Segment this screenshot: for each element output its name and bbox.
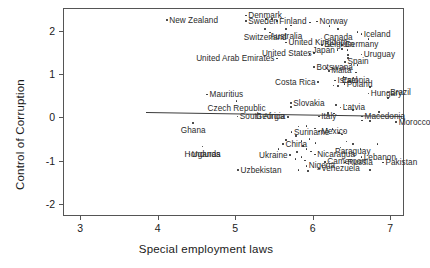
data-point — [337, 28, 339, 30]
x-tick-label: 3 — [70, 222, 90, 234]
data-point — [166, 19, 168, 21]
data-point — [245, 15, 247, 17]
point-label: Pakistan — [385, 158, 417, 167]
point-label: Iceland — [364, 30, 391, 39]
point-label: Finland — [279, 17, 306, 26]
x-tick-mark — [158, 216, 159, 220]
data-point — [192, 122, 194, 124]
point-label: Sweden — [248, 17, 278, 26]
point-label: Uzbekistan — [241, 166, 282, 175]
data-point — [335, 104, 337, 106]
point-label: Uganda — [192, 150, 221, 159]
data-point — [287, 116, 289, 118]
x-axis-title: Special employment laws — [0, 243, 412, 255]
data-point — [314, 154, 316, 156]
y-tick-mark — [59, 74, 63, 75]
data-point — [237, 169, 239, 171]
data-point — [306, 148, 308, 150]
y-tick-mark — [59, 117, 63, 118]
data-point — [285, 28, 287, 30]
data-point — [337, 85, 339, 87]
data-point — [290, 102, 292, 104]
point-label: Mexico — [321, 127, 347, 136]
point-label: New Zealand — [169, 16, 218, 25]
point-label: Latvia — [343, 103, 365, 112]
point-label: Brazil — [390, 88, 411, 97]
data-point — [317, 81, 319, 83]
data-point — [309, 138, 311, 140]
x-tick-mark — [390, 216, 391, 220]
point-label: Ukraine — [259, 151, 288, 160]
point-label: Japan — [312, 46, 335, 55]
point-label: Slovakia — [293, 99, 324, 108]
y-tick-mark — [59, 161, 63, 162]
data-point — [347, 49, 349, 51]
point-label: United Arab Emirates — [196, 54, 274, 63]
point-label: Germany — [344, 40, 378, 49]
point-label: Costa Rica — [275, 78, 316, 87]
data-point — [361, 33, 363, 35]
point-label: Mauritius — [210, 90, 244, 99]
y-tick-label: -2 — [39, 198, 55, 210]
data-point — [290, 106, 292, 108]
data-point — [347, 54, 349, 56]
point-label: Venezuela — [321, 164, 360, 173]
data-point — [309, 22, 311, 24]
y-tick-mark — [59, 204, 63, 205]
y-tick-label: 0 — [39, 111, 55, 123]
data-point — [318, 116, 320, 118]
data-point — [313, 66, 315, 68]
data-point — [369, 169, 371, 171]
data-point — [352, 143, 354, 145]
y-tick-label: 1 — [39, 68, 55, 80]
y-axis-title: Control of Corruption — [14, 79, 26, 190]
x-tick-label: 4 — [148, 222, 168, 234]
x-tick-label: 5 — [225, 222, 245, 234]
data-point — [310, 151, 312, 153]
data-point — [306, 125, 308, 127]
x-tick-mark — [235, 216, 236, 220]
point-label: Ghana — [181, 126, 206, 135]
point-label: Norway — [320, 17, 348, 26]
y-tick-label: 2 — [39, 25, 55, 37]
x-tick-mark — [80, 216, 81, 220]
data-point — [289, 154, 291, 156]
data-point — [282, 143, 284, 145]
data-point — [306, 165, 308, 167]
data-point — [395, 121, 397, 123]
data-point — [307, 170, 309, 172]
point-label: Morocco — [399, 118, 430, 127]
point-label: Malta — [331, 66, 351, 75]
x-tick-label: 7 — [380, 222, 400, 234]
data-point — [337, 49, 339, 51]
y-tick-label: -1 — [39, 155, 55, 167]
data-point — [245, 20, 247, 22]
x-tick-mark — [313, 216, 314, 220]
data-point — [334, 80, 336, 82]
data-point — [296, 151, 298, 153]
point-label: Italy — [321, 112, 336, 121]
y-tick-mark — [59, 31, 63, 32]
point-label: Poland — [347, 80, 373, 89]
x-tick-label: 6 — [303, 222, 323, 234]
point-label: China — [286, 140, 308, 149]
